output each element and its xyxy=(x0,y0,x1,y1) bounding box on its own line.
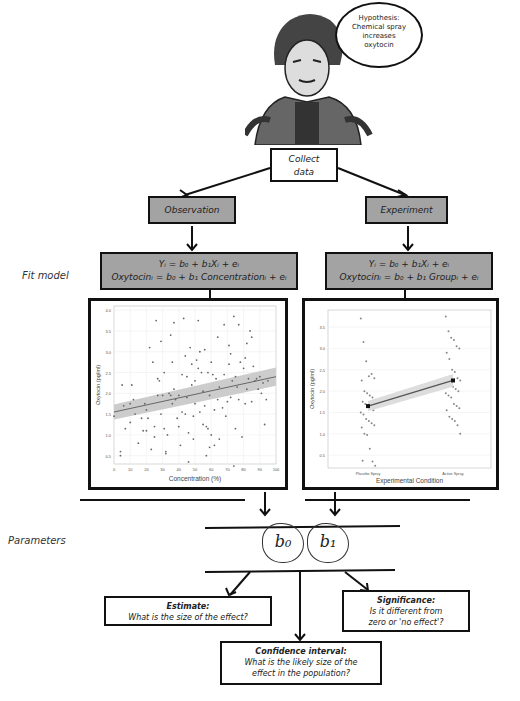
svg-text:0.5: 0.5 xyxy=(105,454,111,459)
svg-text:20: 20 xyxy=(144,467,149,472)
experiment-equation-general: Yᵢ = b₀ + b₁Xᵢ + eᵢ xyxy=(327,258,491,271)
significance-line: Is it different from xyxy=(370,607,443,616)
significance-line: zero or 'no effect'? xyxy=(369,618,444,627)
observation-model-box: Yᵢ = b₀ + b₁Xᵢ + eᵢ Oxytocinᵢ = b₀ + b₁ … xyxy=(100,252,298,290)
experiment-scatter-plot: 0.51.01.52.02.53.03.5Placebo SprayActive… xyxy=(306,302,495,487)
svg-text:3.0: 3.0 xyxy=(105,350,111,355)
svg-text:Experimental Condition: Experimental Condition xyxy=(376,477,444,485)
svg-text:100: 100 xyxy=(273,467,280,472)
svg-text:50: 50 xyxy=(193,467,198,472)
svg-text:4.0: 4.0 xyxy=(105,308,111,313)
svg-text:2.5: 2.5 xyxy=(105,371,111,376)
svg-text:1.0: 1.0 xyxy=(319,432,325,437)
svg-text:60: 60 xyxy=(209,467,214,472)
svg-text:2.0: 2.0 xyxy=(319,389,325,394)
svg-text:0: 0 xyxy=(113,467,116,472)
svg-text:3.0: 3.0 xyxy=(319,346,325,351)
svg-text:0.5: 0.5 xyxy=(319,453,325,458)
svg-text:1.0: 1.0 xyxy=(105,433,111,438)
significance-title: Significance: xyxy=(377,596,435,605)
fit-model-label: Fit model xyxy=(22,270,69,281)
estimate-box: Estimate: What is the size of the effect… xyxy=(104,596,272,626)
svg-text:Oxytocin (pg/ml): Oxytocin (pg/ml) xyxy=(309,369,315,409)
svg-text:Oxytocin (pg/ml): Oxytocin (pg/ml) xyxy=(95,365,101,405)
experiment-model-box: Yᵢ = b₀ + b₁Xᵢ + eᵢ Oxytocinᵢ = b₀ + b₁ … xyxy=(325,252,493,290)
confidence-interval-box: Confidence interval: What is the likely … xyxy=(220,641,382,685)
estimate-title: Estimate: xyxy=(167,602,210,611)
svg-text:30: 30 xyxy=(160,467,165,472)
svg-text:3.5: 3.5 xyxy=(105,329,111,334)
significance-box: Significance: Is it different from zero … xyxy=(342,590,470,632)
b0-parameter-cloud: b₀ xyxy=(262,523,304,563)
experiment-label: Experiment xyxy=(380,205,432,215)
observation-scatter-plot: 0.51.01.52.02.53.03.54.00102030405060708… xyxy=(92,302,284,487)
svg-text:1.5: 1.5 xyxy=(105,412,111,417)
svg-text:90: 90 xyxy=(258,467,263,472)
observation-equation-general: Yᵢ = b₀ + b₁Xᵢ + eᵢ xyxy=(102,258,296,271)
svg-text:2.5: 2.5 xyxy=(319,368,325,373)
b1-parameter-cloud: b₁ xyxy=(307,523,349,563)
svg-text:Active Spray: Active Spray xyxy=(442,472,463,476)
estimate-text: What is the size of the effect? xyxy=(128,613,248,622)
svg-text:Concentration (%): Concentration (%) xyxy=(169,475,221,483)
b0-label: b₀ xyxy=(275,532,292,551)
svg-text:70: 70 xyxy=(225,467,230,472)
confidence-line: What is the likely size of the xyxy=(244,658,357,667)
svg-text:40: 40 xyxy=(177,467,182,472)
svg-text:10: 10 xyxy=(128,467,133,472)
parameters-label: Parameters xyxy=(8,535,66,546)
svg-text:Placebo Spray: Placebo Spray xyxy=(356,472,381,476)
observation-box: Observation xyxy=(148,196,236,224)
observation-equation-specific: Oxytocinᵢ = b₀ + b₁ Concentrationᵢ + eᵢ xyxy=(102,271,296,284)
observation-label: Observation xyxy=(165,205,220,215)
experiment-equation-specific: Oxytocinᵢ = b₀ + b₁ Groupᵢ + eᵢ xyxy=(327,271,491,284)
confidence-line: effect in the population? xyxy=(252,669,350,678)
svg-text:80: 80 xyxy=(241,467,246,472)
svg-text:1.5: 1.5 xyxy=(319,410,325,415)
experiment-box: Experiment xyxy=(365,196,448,224)
confidence-title: Confidence interval: xyxy=(255,647,346,656)
b1-label: b₁ xyxy=(320,532,337,551)
svg-text:3.5: 3.5 xyxy=(319,325,325,330)
svg-text:2.0: 2.0 xyxy=(105,391,111,396)
